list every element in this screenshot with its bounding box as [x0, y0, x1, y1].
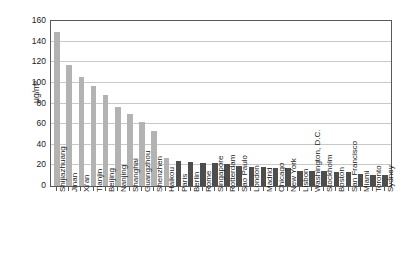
- x-axis-tick-mark: [360, 187, 361, 191]
- x-axis-category-label: Haikou: [168, 167, 176, 192]
- x-axis-tick-mark: [311, 187, 312, 191]
- bar: [79, 77, 85, 186]
- x-axis-tick-mark: [263, 187, 264, 191]
- x-axis-category-label: Tianjin: [96, 169, 104, 192]
- y-axis-tick-label: 80: [37, 98, 46, 107]
- x-axis-category-labels: ShijiazhuangJinanXi'anTianjinBeijingNanj…: [50, 192, 392, 278]
- x-axis-category-label: Paris: [181, 174, 189, 192]
- x-axis-tick-mark: [117, 187, 118, 191]
- x-axis-category-label: London: [253, 165, 261, 192]
- x-axis-tick-mark: [56, 187, 57, 191]
- x-axis-category-label: Shanghai: [132, 158, 140, 192]
- x-axis-category-label: Stockholm: [326, 155, 334, 192]
- y-axis-tick-label: 140: [32, 36, 46, 45]
- x-axis-tick-mark: [384, 187, 385, 191]
- y-axis-tick-label: 120: [32, 57, 46, 66]
- x-axis-category-label: Shijiazhuang: [59, 146, 67, 192]
- x-axis-category-label: Beijing: [108, 168, 116, 192]
- y-axis-tick-label: 40: [37, 139, 46, 148]
- x-axis-tick-mark: [190, 187, 191, 191]
- y-axis-tick-label: 160: [32, 16, 46, 25]
- x-axis-category-label: Jinan: [71, 173, 79, 192]
- x-axis-category-label: Sydney: [387, 165, 395, 192]
- x-axis-category-label: Madrid: [266, 168, 274, 192]
- x-axis-tick-mark: [214, 187, 215, 191]
- x-axis-category-label: Xi'an: [83, 174, 91, 192]
- x-axis-tick-mark: [178, 187, 179, 191]
- x-axis-tick-mark: [105, 187, 106, 191]
- x-axis-tick-mark: [129, 187, 130, 191]
- x-axis-tick-mark: [348, 187, 349, 191]
- y-axis-tick-label: 100: [32, 77, 46, 86]
- x-axis-category-label: Nanjing: [120, 165, 128, 192]
- x-axis-category-label: Chicago: [278, 163, 286, 192]
- x-axis-category-label: Rotterdam: [229, 155, 237, 192]
- x-axis-tick-mark: [287, 187, 288, 191]
- x-axis-tick-mark: [299, 187, 300, 191]
- x-axis-category-label: Singapore: [217, 156, 225, 192]
- y-axis-tick-label: 0: [41, 181, 46, 190]
- x-axis-tick-mark: [93, 187, 94, 191]
- x-axis-tick-mark: [372, 187, 373, 191]
- x-axis-category-label: Toronto: [375, 165, 383, 192]
- x-axis-category-label: Miami: [363, 171, 371, 192]
- x-axis-category-label: Washington, D.C.: [314, 130, 322, 192]
- x-axis-category-label: Boston: [338, 167, 346, 192]
- x-axis-tick-mark: [141, 187, 142, 191]
- x-axis-category-label: New York: [290, 158, 298, 192]
- bar: [66, 65, 72, 186]
- x-axis-category-label: Rome: [205, 171, 213, 192]
- x-axis-category-label: Guangzhou: [144, 151, 152, 192]
- x-axis-category-label: Berlin: [193, 172, 201, 192]
- x-axis-category-label: Lisbon: [302, 168, 310, 192]
- y-axis-tick-labels: 020406080100120140160: [22, 14, 46, 188]
- x-axis-tick-mark: [226, 187, 227, 191]
- bar-chart: µg/m³ 020406080100120140160 Shijiazhuang…: [0, 0, 401, 280]
- y-axis-tick-label: 60: [37, 119, 46, 128]
- x-axis-category-label: San Francisco: [351, 141, 359, 192]
- y-axis-tick-label: 20: [37, 160, 46, 169]
- x-axis-tick-mark: [202, 187, 203, 191]
- x-axis-category-label: Sao Paulo: [241, 155, 249, 192]
- x-axis-category-label: Shenzhen: [156, 156, 164, 192]
- x-axis-tick-mark: [275, 187, 276, 191]
